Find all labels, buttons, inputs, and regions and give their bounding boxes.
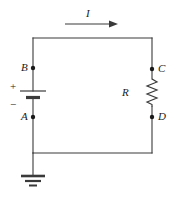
node-label-d: D xyxy=(158,111,166,122)
node-label-a: A xyxy=(21,111,28,122)
node-label-b: B xyxy=(21,62,28,73)
circuit-diagram-canvas: I B A C D R + − xyxy=(0,0,170,197)
node-dot-d xyxy=(150,115,154,119)
ground-symbol xyxy=(21,176,45,186)
resistor-symbol xyxy=(147,79,157,107)
resistor-zigzag-path xyxy=(147,79,157,107)
battery-minus-label: − xyxy=(10,99,16,110)
circuit-schematic-svg xyxy=(0,0,170,197)
node-dot-c xyxy=(150,67,154,71)
current-label: I xyxy=(86,8,90,19)
battery-symbol xyxy=(20,91,46,98)
node-label-c: C xyxy=(158,63,165,74)
battery-plus-label: + xyxy=(10,81,16,92)
node-dots xyxy=(31,66,154,119)
resistor-label: R xyxy=(122,87,129,98)
node-dot-b xyxy=(31,66,35,70)
node-dot-a xyxy=(31,115,35,119)
current-arrow-head xyxy=(109,21,118,28)
current-arrow xyxy=(65,21,118,28)
